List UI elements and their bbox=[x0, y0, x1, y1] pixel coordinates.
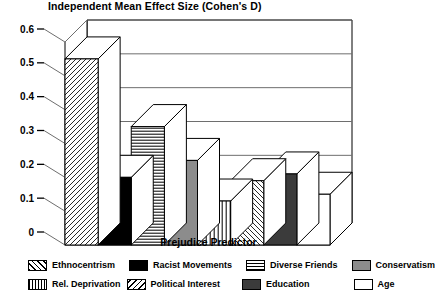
y-axis-tick-label: 0.1 bbox=[20, 193, 34, 204]
legend-item-ethnocentrism: Ethnocentrism bbox=[28, 260, 115, 271]
bar-ethnocentrism bbox=[65, 37, 120, 245]
legend-swatch-solid bbox=[354, 279, 373, 290]
chart-plot-area: 0.60.50.40.30.20.10 bbox=[0, 0, 417, 250]
legend-label: Rel. Deprivation bbox=[52, 279, 121, 290]
y-axis-tick-label: 0.5 bbox=[20, 57, 34, 68]
y-axis-tick-label: 0.4 bbox=[20, 91, 34, 102]
legend-item-age: Age bbox=[354, 279, 395, 290]
legend-item-rel-deprivation: Rel. Deprivation bbox=[28, 279, 121, 290]
y-axis-tick-label: 0.2 bbox=[20, 159, 34, 170]
legend-label: Age bbox=[378, 279, 395, 290]
legend-label: Conservatism bbox=[376, 260, 435, 271]
legend-row-bottom: Rel. DeprivationPolitical InterestEducat… bbox=[0, 275, 417, 294]
x-axis-title: Prejudice Predictor bbox=[0, 236, 417, 248]
legend-item-political-interest: Political Interest bbox=[127, 279, 221, 290]
legend-item-conservatism: Conservatism bbox=[352, 260, 435, 271]
legend-item-diverse-friends: Diverse Friends bbox=[246, 260, 338, 271]
legend-swatch-solid bbox=[242, 279, 261, 290]
legend-label: Political Interest bbox=[151, 279, 221, 290]
legend-swatch-solid bbox=[129, 260, 148, 271]
legend-swatch-horizontal bbox=[246, 260, 265, 271]
legend-row-top: EthnocentrismRacist MovementsDiverse Fri… bbox=[0, 256, 417, 275]
legend-label: Racist Movements bbox=[153, 260, 232, 271]
legend-item-education: Education bbox=[242, 279, 310, 290]
legend-swatch-diagonal-back bbox=[127, 279, 146, 290]
legend-swatch-vertical bbox=[28, 279, 47, 290]
legend-item-racist-movements: Racist Movements bbox=[129, 260, 232, 271]
y-axis-tick-label: 0.6 bbox=[20, 24, 34, 35]
legend-swatch-diagonal-forward bbox=[28, 260, 47, 271]
legend-label: Ethnocentrism bbox=[52, 260, 115, 271]
legend-label: Education bbox=[266, 279, 310, 290]
y-axis-tick-label: 0.3 bbox=[20, 125, 34, 136]
legend-label: Diverse Friends bbox=[270, 260, 338, 271]
chart-legend: EthnocentrismRacist MovementsDiverse Fri… bbox=[0, 256, 417, 294]
legend-swatch-solid bbox=[352, 260, 371, 271]
